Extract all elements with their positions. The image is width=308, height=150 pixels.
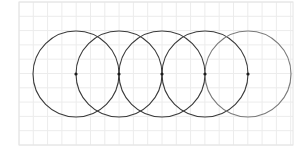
circles-diagram — [0, 0, 308, 150]
diagram-canvas — [0, 0, 308, 150]
center-point-4 — [203, 72, 206, 75]
center-point-2 — [117, 72, 120, 75]
background-grid — [19, 2, 293, 145]
center-point-5 — [246, 72, 249, 75]
center-point-1 — [74, 72, 77, 75]
center-point-3 — [160, 72, 163, 75]
